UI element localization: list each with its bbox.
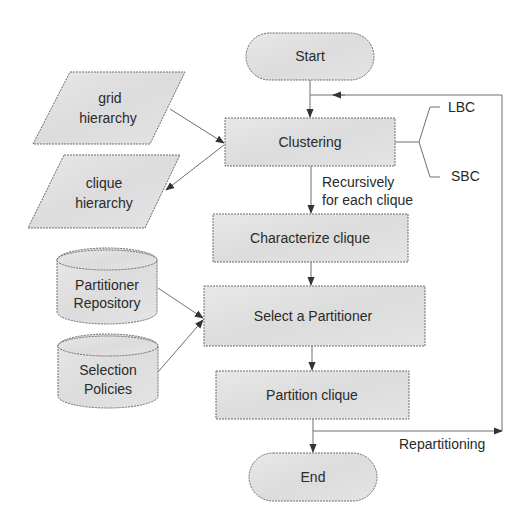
- flowchart-diagram: Start Clustering Characterize clique Sel…: [0, 0, 526, 528]
- end-label: End: [301, 469, 326, 485]
- sbc-label: SBC: [451, 168, 480, 184]
- start-label: Start: [295, 48, 325, 64]
- lbc-label: LBC: [448, 99, 475, 115]
- partitioner-repository-label-line1: Partitioner: [75, 277, 139, 293]
- edge-policies-to-select: [158, 320, 203, 372]
- recursive-label-line2: for each clique: [322, 192, 413, 208]
- characterize-clique-label: Characterize clique: [250, 230, 370, 246]
- select-partitioner-node[interactable]: Select a Partitioner: [204, 286, 425, 346]
- grid-hierarchy-label-line2: hierarchy: [79, 110, 137, 126]
- clique-hierarchy-node[interactable]: clique hierarchy: [28, 155, 180, 228]
- partition-clique-node[interactable]: Partition clique: [216, 371, 409, 419]
- edge-repository-to-select: [158, 288, 203, 318]
- clustering-label: Clustering: [278, 134, 341, 150]
- grid-hierarchy-label-line1: grid: [98, 90, 121, 106]
- clique-hierarchy-label-line2: hierarchy: [75, 195, 133, 211]
- lbc-sbc-bracket: [395, 107, 440, 142]
- end-node[interactable]: End: [249, 453, 377, 501]
- partitioner-repository-node[interactable]: Partitioner Repository: [57, 248, 157, 324]
- repartitioning-label: Repartitioning: [399, 436, 485, 452]
- clustering-node[interactable]: Clustering: [225, 118, 395, 166]
- selection-policies-label-line2: Policies: [84, 381, 132, 397]
- characterize-clique-node[interactable]: Characterize clique: [213, 214, 408, 262]
- edge-grid-to-clustering: [170, 109, 224, 143]
- select-partitioner-label: Select a Partitioner: [254, 308, 373, 324]
- grid-hierarchy-node[interactable]: grid hierarchy: [33, 72, 185, 144]
- lbc-sbc-bracket-lower: [419, 142, 440, 177]
- selection-policies-node[interactable]: Selection Policies: [58, 334, 158, 408]
- recursive-label-line1: Recursively: [322, 174, 394, 190]
- clique-hierarchy-label-line1: clique: [86, 175, 123, 191]
- partitioner-repository-label-line2: Repository: [74, 295, 141, 311]
- start-node[interactable]: Start: [246, 33, 374, 80]
- partition-clique-label: Partition clique: [266, 387, 358, 403]
- edge-clustering-to-clique: [166, 145, 224, 190]
- selection-policies-label-line1: Selection: [79, 362, 137, 378]
